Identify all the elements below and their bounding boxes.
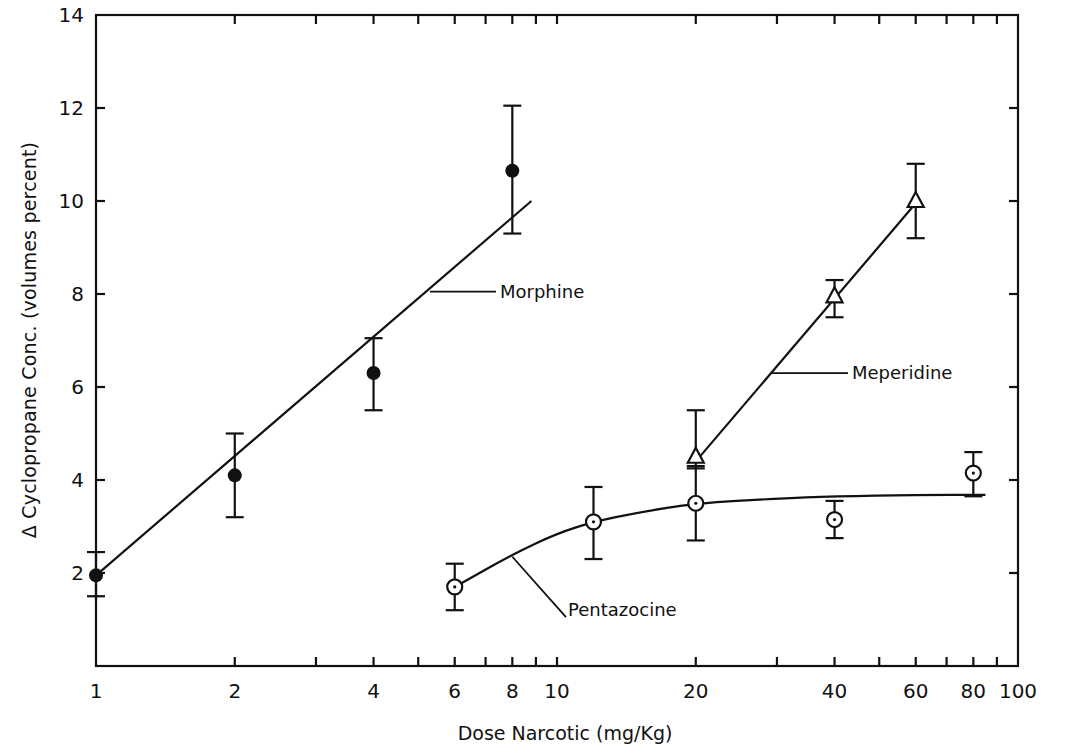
filled-circle-marker <box>89 568 103 582</box>
data-markers <box>89 164 981 595</box>
x-tick-label: 4 <box>367 679 380 703</box>
x-tick-label: 6 <box>448 679 461 703</box>
x-tick-label: 40 <box>822 679 847 703</box>
x-tick-label: 100 <box>999 679 1037 703</box>
x-tick-label: 8 <box>506 679 519 703</box>
filled-circle-marker <box>367 366 381 380</box>
y-tick-label: 14 <box>59 3 84 27</box>
chart-canvas: 1246810204060801002468101214 MorphineMep… <box>0 0 1070 756</box>
x-tick-label: 20 <box>683 679 708 703</box>
x-tick-label: 1 <box>90 679 103 703</box>
dotted-circle-center <box>972 471 975 474</box>
fit-lines <box>96 201 985 587</box>
y-tick-label: 10 <box>59 189 84 213</box>
y-tick-label: 2 <box>71 561 84 585</box>
dotted-circle-center <box>453 585 456 588</box>
y-tick-label: 12 <box>59 96 84 120</box>
x-axis-title: Dose Narcotic (mg/Kg) <box>0 722 1070 744</box>
x-tick-label: 2 <box>228 679 241 703</box>
open-triangle-marker <box>908 192 924 207</box>
dotted-circle-center <box>592 520 595 523</box>
series-labels: MorphineMeperidinePentazocine <box>430 281 953 621</box>
y-axis-title-wrap: Δ Cyclopropane Conc. (volumes percent) <box>14 0 44 756</box>
x-tick-label: 80 <box>961 679 986 703</box>
morphine-fit-line <box>96 201 531 575</box>
dotted-circle-center <box>833 518 836 521</box>
meperidine-fit-line <box>696 203 916 461</box>
plot-frame <box>96 15 1018 666</box>
pentazocine-fit-curve <box>455 495 986 587</box>
y-axis-title: Δ Cyclopropane Conc. (volumes percent) <box>18 142 40 538</box>
y-tick-label: 6 <box>71 375 84 399</box>
y-tick-label: 4 <box>71 468 84 492</box>
pentazocine-leader-line <box>512 557 566 617</box>
filled-circle-marker <box>505 164 519 178</box>
filled-circle-marker <box>228 468 242 482</box>
meperidine-label: Meperidine <box>852 362 952 383</box>
pentazocine-label: Pentazocine <box>568 599 677 620</box>
error-bars <box>87 106 982 611</box>
y-tick-label: 8 <box>71 282 84 306</box>
open-triangle-marker <box>827 287 843 302</box>
dotted-circle-center <box>694 502 697 505</box>
x-tick-label: 10 <box>544 679 569 703</box>
x-tick-label: 60 <box>903 679 928 703</box>
plot-axes <box>96 15 1018 666</box>
morphine-label: Morphine <box>500 281 584 302</box>
